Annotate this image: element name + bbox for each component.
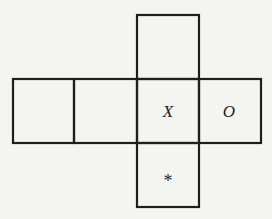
face-label-o: O bbox=[223, 102, 235, 121]
face-row-1 bbox=[13, 79, 74, 143]
face-label-asterisk: * bbox=[164, 171, 173, 191]
face-row-2 bbox=[74, 79, 137, 143]
cube-net-diagram: X O * bbox=[0, 0, 272, 219]
face-label-x: X bbox=[162, 102, 174, 121]
face-top bbox=[137, 15, 199, 79]
